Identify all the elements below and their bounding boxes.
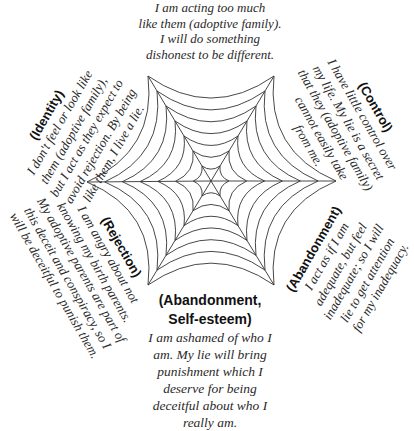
bottom-line: really am. [120,414,300,431]
bottom-line: deceitful about who I [120,397,300,414]
text-block-bottom: (Abandonment, Self-esteem) I am ashamed … [120,291,300,431]
bottom-heading: (Abandonment, Self-esteem) [120,291,300,329]
bottom-line: punishment which I [120,363,300,380]
top-line: like them (adoptive family). [110,16,310,32]
bottom-heading-line: (Abandonment, [120,291,300,310]
bottom-line: am. My lie will bring [120,346,300,363]
bottom-heading-line: Self-esteem) [120,310,300,329]
top-line: I will do something [110,31,310,47]
bottom-line: I am ashamed of who I [120,329,300,346]
top-body: I am acting too much like them (adoptive… [110,0,310,62]
top-line: dishonest to be different. [110,47,310,63]
text-block-top: I am acting too much like them (adoptive… [110,0,310,62]
bottom-body: I am ashamed of who I am. My lie will br… [120,329,300,431]
top-line: I am acting too much [110,0,310,16]
bottom-line: deserve for being [120,380,300,397]
